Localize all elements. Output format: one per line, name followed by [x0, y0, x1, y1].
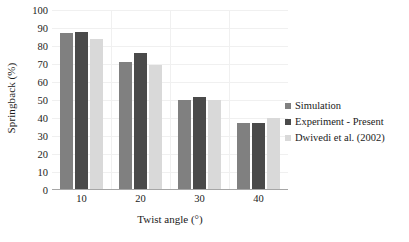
bar [75, 32, 88, 190]
x-axis-tick-30: 30 [170, 193, 229, 204]
x-axis-tick-labels: 10203040 [52, 193, 288, 204]
bar [193, 97, 206, 190]
legend-item: Experiment - Present [285, 116, 385, 127]
x-axis-tick-40: 40 [229, 193, 288, 204]
bars-layer [52, 10, 288, 190]
y-axis-tick-0: 0 [43, 185, 48, 196]
y-axis-tick-70: 70 [38, 59, 49, 70]
y-axis-tick-80: 80 [38, 41, 49, 52]
y-axis-tick-90: 90 [38, 23, 49, 34]
y-axis-tick-60: 60 [38, 77, 49, 88]
legend-swatch-icon [285, 135, 291, 141]
bar [60, 33, 73, 190]
bar [252, 123, 265, 190]
x-axis-title-label: Twist angle (°) [137, 213, 202, 225]
bar-chart: Springback (%) 0102030405060708090100 10… [0, 0, 409, 242]
bar [90, 39, 103, 190]
bar [237, 123, 250, 190]
y-axis-tick-40: 40 [38, 113, 49, 124]
legend-label: Experiment - Present [295, 116, 384, 127]
chart-legend: SimulationExperiment - PresentDwivedi et… [285, 100, 385, 143]
legend-label: Dwivedi et al. (2002) [295, 132, 385, 143]
bar-group-30 [170, 10, 229, 190]
bar-group-40 [229, 10, 288, 190]
x-axis-tick-10: 10 [52, 193, 111, 204]
bar-group-20 [111, 10, 170, 190]
bar [134, 53, 147, 190]
bar [208, 100, 221, 190]
bar-group-10 [52, 10, 111, 190]
bar [178, 100, 191, 190]
x-axis-line [52, 189, 288, 190]
x-axis-tick-20: 20 [111, 193, 170, 204]
legend-swatch-icon [285, 103, 291, 109]
legend-swatch-icon [285, 119, 291, 125]
y-axis-tick-20: 20 [38, 149, 49, 160]
plot-area [52, 10, 288, 190]
y-axis-tick-50: 50 [38, 95, 49, 106]
bar [119, 62, 132, 190]
y-axis-tick-100: 100 [32, 5, 48, 16]
bar [267, 118, 280, 190]
bar [149, 65, 162, 190]
legend-label: Simulation [295, 100, 341, 111]
y-axis-title-label: Springback (%) [5, 62, 17, 133]
x-axis-title: Twist angle (°) [52, 213, 288, 225]
y-axis-tick-10: 10 [38, 167, 49, 178]
y-axis-tick-labels: 0102030405060708090100 [18, 10, 52, 190]
legend-item: Simulation [285, 100, 385, 111]
legend-item: Dwivedi et al. (2002) [285, 132, 385, 143]
y-axis-tick-30: 30 [38, 131, 49, 142]
